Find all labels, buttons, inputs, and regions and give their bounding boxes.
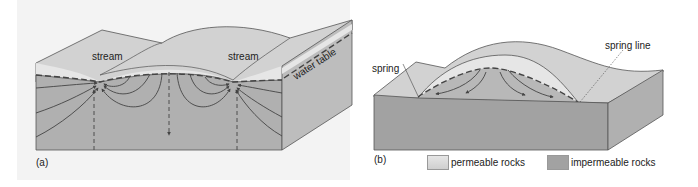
panel-a-diagram (36, 20, 352, 150)
panel-a-label: (a) (36, 157, 48, 168)
legend-permeable: permeable rocks (427, 155, 525, 170)
legend-permeable-label: permeable rocks (451, 157, 525, 168)
impermeable-swatch (547, 155, 569, 170)
legend-impermeable-label: impermeable rocks (571, 157, 655, 168)
panel-b-label: (b) (374, 154, 386, 165)
legend-impermeable: impermeable rocks (547, 155, 655, 170)
label-spring-line: spring line (605, 40, 651, 51)
label-spring: spring (372, 63, 399, 74)
label-stream-right: stream (228, 51, 259, 62)
label-stream-left: stream (92, 51, 123, 62)
permeable-swatch (427, 155, 449, 170)
panel-b-diagram (374, 42, 663, 150)
